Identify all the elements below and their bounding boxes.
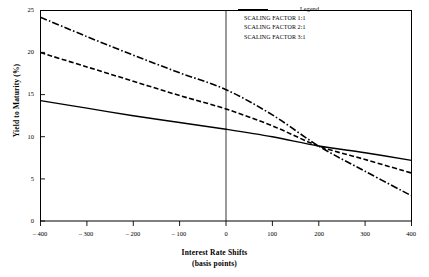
- y-tick-label: 10: [12, 133, 34, 140]
- legend-item-scaling-factor-1-1: SCALING FACTOR 1:1: [238, 14, 408, 22]
- y-tick-marks: [41, 11, 46, 222]
- x-tick-label: 200: [304, 230, 334, 237]
- legend-label: SCALING FACTOR 2:1: [238, 24, 306, 30]
- x-tick-label: – 100: [164, 230, 194, 237]
- x-tick-label: – 300: [71, 230, 101, 237]
- y-tick-label: 0: [12, 217, 34, 224]
- y-tick-label: 20: [12, 48, 34, 55]
- x-axis-subtitle: (basis points): [0, 259, 429, 268]
- x-tick-label: 0: [211, 230, 241, 237]
- x-tick-marks: [41, 221, 412, 226]
- legend: Legend SCALING FACTOR 1:1 SCALING FACTOR…: [238, 6, 408, 41]
- x-tick-label: 100: [257, 230, 287, 237]
- legend-item-scaling-factor-2-1: SCALING FACTOR 2:1: [238, 23, 408, 31]
- x-tick-label: 400: [396, 230, 426, 237]
- x-tick-label: – 200: [118, 230, 148, 237]
- legend-item-scaling-factor-3-1: SCALING FACTOR 3:1: [238, 33, 408, 41]
- legend-key-dash-dot-icon: [238, 6, 268, 14]
- y-tick-label: 15: [12, 90, 34, 97]
- chart-figure: Yield to Maturity (%): [0, 0, 429, 277]
- y-tick-label: 25: [12, 6, 34, 13]
- x-tick-label: – 400: [25, 230, 55, 237]
- x-axis-title: Interest Rate Shifts: [0, 248, 429, 257]
- legend-label: SCALING FACTOR 3:1: [238, 34, 306, 40]
- x-tick-label: 300: [350, 230, 380, 237]
- y-tick-label: 5: [12, 175, 34, 182]
- legend-label: SCALING FACTOR 1:1: [238, 15, 306, 21]
